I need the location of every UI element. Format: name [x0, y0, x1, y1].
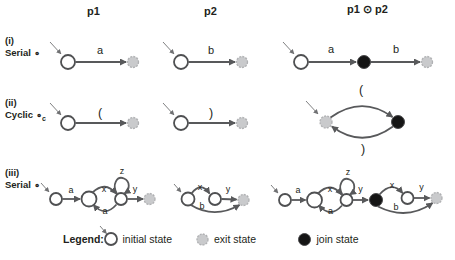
legend-exit-label: exit state — [214, 233, 256, 245]
edge-label: z — [346, 167, 351, 177]
edge-label: b — [199, 201, 204, 211]
edge-label: a — [328, 43, 335, 55]
edge-label: x — [102, 184, 107, 194]
initial-state-node — [174, 116, 188, 130]
edge-label: ( — [98, 106, 103, 120]
exit-state-node — [237, 118, 248, 129]
edge-label: b — [208, 44, 214, 56]
self-loop-edge — [115, 178, 129, 194]
entry-arrow — [306, 101, 318, 114]
edge-label: ) — [361, 142, 365, 156]
entry-arrow — [163, 42, 174, 54]
initial-state-node — [279, 194, 291, 206]
graph-serial2-composed: a x a z y x y b — [271, 167, 442, 216]
initial-state-node — [182, 193, 195, 206]
entry-arrow — [50, 103, 61, 115]
legend-join-label: join state — [316, 233, 359, 245]
edge-label: a — [68, 185, 73, 195]
initial-state-node — [61, 116, 75, 130]
entry-arrow — [271, 185, 278, 193]
exit-state-node — [128, 118, 139, 129]
edge-label: a — [328, 206, 333, 216]
edge-label: b — [393, 202, 398, 212]
state-node — [341, 194, 353, 206]
graph-cyclic-p1: ( — [50, 103, 139, 130]
legend-title: Legend: — [63, 233, 104, 245]
edge-label: b — [393, 43, 399, 55]
edge-label: y — [419, 182, 424, 192]
legend-initial-label: initial state — [123, 233, 173, 245]
initial-state-icon — [105, 233, 117, 245]
legend: Legend: initial state exit state join st… — [63, 226, 359, 246]
edge-label: x — [328, 184, 333, 194]
graph-serial2-p1: a x a z y — [41, 166, 155, 216]
edge-label: y — [226, 184, 231, 194]
entry-arrow — [163, 103, 174, 115]
exit-state-icon — [197, 234, 208, 245]
edge-label: y — [358, 184, 363, 194]
entry-arrow — [41, 183, 49, 192]
entry-arrow — [50, 42, 61, 54]
edge-label: y — [133, 184, 138, 194]
entry-arrow — [283, 42, 294, 54]
graph-serial-composed: a b — [283, 42, 433, 69]
initial-exit-state-node — [320, 116, 332, 128]
graph-cyclic-composed: ( ) — [306, 83, 405, 156]
state-node — [115, 193, 127, 205]
exit-state-node — [422, 57, 433, 68]
exit-state-node — [238, 195, 249, 206]
initial-state-node — [50, 193, 62, 205]
edge-label: a — [295, 185, 300, 195]
graph-serial-p1: a — [50, 42, 139, 69]
edge-label: z — [120, 166, 125, 176]
cycle-bottom-edge — [332, 127, 393, 138]
edge-label: a — [102, 206, 107, 216]
join-state-node — [370, 194, 383, 207]
graph-cyclic-p2: ) — [163, 103, 248, 130]
join-state-node — [392, 116, 405, 129]
exit-state-node — [237, 57, 248, 68]
edge-label: x — [198, 182, 203, 192]
initial-state-node — [174, 55, 188, 69]
automata-diagram: a b a b ( — [0, 0, 455, 260]
state-node — [402, 192, 414, 204]
state-node — [209, 193, 221, 205]
cycle-top-edge — [331, 106, 393, 117]
edge-label: x — [390, 180, 395, 190]
transition-edge — [222, 199, 237, 200]
figure-canvas: p1 p2 p1 ⊙ p2 (i) Serial∘ (ii) Cyclic∘c … — [0, 0, 455, 260]
edge-label: ) — [209, 106, 213, 120]
graph-serial-p2: b — [163, 42, 248, 69]
self-loop-edge — [340, 179, 354, 195]
initial-state-node — [294, 55, 308, 69]
state-node — [82, 192, 97, 207]
edge-label: a — [97, 44, 104, 56]
join-state-icon — [299, 234, 311, 246]
exit-state-node — [128, 57, 139, 68]
graph-serial2-p2: x y b — [174, 182, 249, 212]
join-state-node — [358, 56, 371, 69]
edge-label: ( — [359, 83, 364, 97]
initial-state-node — [61, 55, 75, 69]
entry-arrow — [174, 184, 181, 192]
exit-state-node — [431, 193, 442, 204]
exit-state-node — [144, 194, 155, 205]
